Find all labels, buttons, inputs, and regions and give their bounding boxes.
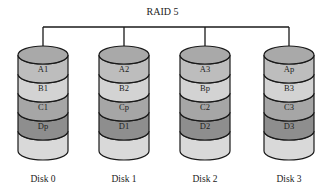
block-label: B2 (119, 83, 129, 93)
block-label: B1 (38, 83, 48, 93)
block-label: C1 (38, 102, 48, 112)
block-label: B3 (284, 83, 294, 93)
block-label: C3 (284, 102, 294, 112)
disk-top (18, 46, 68, 64)
disk-0: DpC1B1A1 (18, 46, 68, 160)
disk-3-label: Disk 3 (259, 174, 319, 184)
disk-0-label: Disk 0 (13, 174, 73, 184)
disk-top (264, 46, 314, 64)
block-label: D2 (200, 121, 210, 131)
block-label: D3 (284, 121, 294, 131)
disk-top (99, 46, 149, 64)
disk-1: D1CpB2A2 (99, 46, 149, 160)
block-label: Ap (284, 64, 294, 74)
block-label: D1 (119, 121, 129, 131)
disk-3: D3C3B3Ap (264, 46, 314, 160)
block-label: A3 (200, 64, 210, 74)
disk-array: DpC1B1A1D1CpB2A2D2C2BpA3D3C3B3Ap (0, 0, 325, 196)
block-label: C2 (200, 102, 210, 112)
disk-2: D2C2BpA3 (180, 46, 230, 160)
block-label: Dp (38, 121, 48, 131)
block-label: A2 (119, 64, 129, 74)
raid5-diagram: RAID 5 DpC1B1A1D1CpB2A2D2C2BpA3D3C3B3Ap … (0, 0, 325, 196)
disk-top (180, 46, 230, 64)
block-label: A1 (38, 64, 48, 74)
block-label: Cp (119, 102, 129, 112)
disk-2-label: Disk 2 (175, 174, 235, 184)
block-label: Bp (200, 83, 210, 93)
disk-1-label: Disk 1 (94, 174, 154, 184)
